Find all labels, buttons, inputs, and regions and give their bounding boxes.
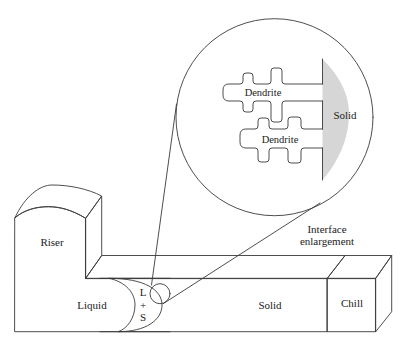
riser-right-face	[86, 196, 102, 278]
interface-label-line1: Interface	[307, 223, 346, 235]
bar-top-face	[86, 256, 345, 279]
projection-line-upper	[152, 104, 177, 285]
mushy-zone-label-s: S	[140, 311, 146, 323]
chill-right-face	[376, 256, 392, 332]
dendrite-lower-label: Dendrite	[262, 134, 299, 145]
mushy-zone-label-plus: +	[140, 299, 146, 311]
casting: Riser Liquid L + S Solid Chill	[15, 185, 392, 332]
dendrite-upper-label: Dendrite	[245, 87, 282, 98]
interface-marker-circle	[150, 284, 170, 304]
enlargement-solid-label: Solid	[333, 109, 357, 121]
casting-front-face	[15, 207, 327, 332]
chill-block	[327, 256, 391, 332]
projection-line-lower	[164, 203, 321, 304]
riser-label: Riser	[40, 236, 64, 248]
mushy-zone-region	[109, 278, 162, 331]
interface-label-line2: enlargement	[300, 235, 354, 247]
riser-top-face	[15, 185, 102, 218]
solid-label: Solid	[258, 299, 282, 311]
chill-top-face	[327, 256, 391, 279]
enlargement-view: Dendrite Dendrite Solid	[176, 19, 373, 216]
liquid-label: Liquid	[77, 299, 107, 311]
mushy-zone-label-l: L	[140, 286, 147, 298]
chill-label: Chill	[341, 297, 363, 309]
solidification-diagram: Riser Liquid L + S Solid Chill Interface…	[0, 0, 410, 345]
